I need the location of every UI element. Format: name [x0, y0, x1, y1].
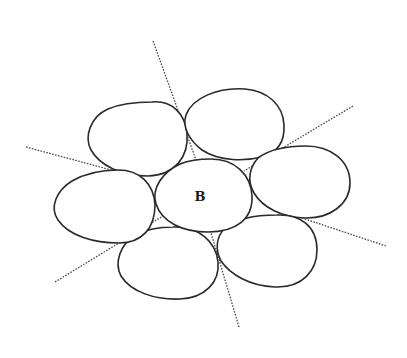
- egg-upper-left: [88, 102, 187, 176]
- egg-left: [54, 170, 155, 243]
- egg-upper-right: [185, 89, 284, 160]
- center-label: B: [195, 189, 206, 204]
- egg-right: [250, 146, 350, 218]
- egg-packing-diagram: B: [0, 0, 407, 358]
